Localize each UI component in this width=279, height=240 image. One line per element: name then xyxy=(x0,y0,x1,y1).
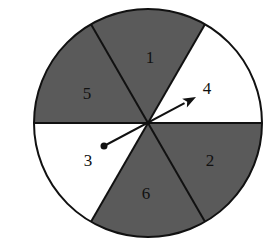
arrow-tail-dot xyxy=(101,143,108,150)
sector-label-2: 2 xyxy=(206,151,215,170)
sector-label-3: 3 xyxy=(84,151,93,170)
sector-label-4: 4 xyxy=(203,79,212,98)
sector-label-1: 1 xyxy=(146,48,155,67)
sector-label-6: 6 xyxy=(142,184,151,203)
sector-label-5: 5 xyxy=(83,84,92,103)
spinner-diagram: 142635 xyxy=(0,0,279,240)
